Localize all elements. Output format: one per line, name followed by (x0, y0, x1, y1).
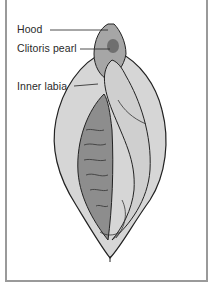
label-hood: Hood (17, 23, 43, 35)
label-clitoris-pearl: Clitoris pearl (17, 42, 77, 54)
label-inner-labia: Inner labia (17, 80, 67, 92)
clitoris-pearl (107, 39, 119, 53)
